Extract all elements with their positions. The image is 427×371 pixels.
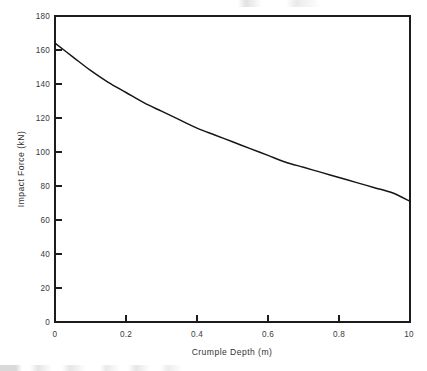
y-axis-title: Impact Force (kN) [16, 131, 26, 207]
y-tick-label-120: 120 [36, 114, 51, 123]
y-tick-label-100: 100 [36, 148, 51, 157]
impact-force-curve [55, 43, 410, 201]
figure-container: 0 20 40 60 80 100 120 140 160 180 0 0.2 … [0, 0, 427, 371]
y-tick-label-40: 40 [40, 250, 50, 259]
y-tick-label-180: 180 [36, 12, 51, 21]
x-tick-label-0-8: 0.8 [333, 330, 345, 339]
y-tick-label-160: 160 [36, 46, 51, 55]
y-tick-label-20: 20 [40, 284, 50, 293]
x-tick-label-0-4: 0.4 [191, 330, 203, 339]
x-axis-tick-labels: 0 0.2 0.4 0.6 0.8 10 [53, 330, 414, 339]
impact-force-vs-crumple-depth-chart: 0 20 40 60 80 100 120 140 160 180 0 0.2 … [0, 0, 427, 371]
y-tick-label-140: 140 [36, 80, 51, 89]
x-axis-ticks [55, 315, 410, 322]
x-tick-label-0: 0 [53, 330, 58, 339]
y-axis-ticks [55, 16, 62, 322]
y-tick-label-0: 0 [45, 318, 50, 327]
y-tick-label-80: 80 [40, 182, 50, 191]
x-axis-title: Crumple Depth (m) [192, 347, 273, 357]
x-tick-label-1-0: 10 [404, 330, 414, 339]
y-tick-label-60: 60 [40, 216, 50, 225]
x-tick-label-0-2: 0.2 [120, 330, 132, 339]
plot-frame [55, 16, 410, 322]
y-axis-tick-labels: 0 20 40 60 80 100 120 140 160 180 [36, 12, 51, 327]
x-tick-label-0-6: 0.6 [262, 330, 274, 339]
